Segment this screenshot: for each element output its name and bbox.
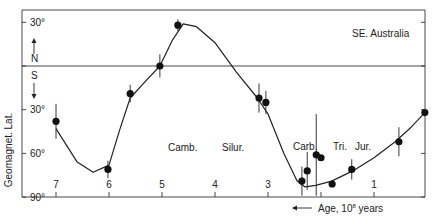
data-point <box>52 118 59 125</box>
data-point <box>174 22 181 29</box>
fitted-curve-path <box>56 24 425 187</box>
y-tick-label: 30° <box>30 17 45 28</box>
data-point <box>127 90 134 97</box>
data-points <box>52 19 428 195</box>
period-label-silurian: Silur. <box>222 142 244 153</box>
y-axis-label: Geomagnet. Lat. <box>3 113 14 188</box>
axis-ticks <box>22 22 425 197</box>
period-label-carboniferous: Carb. <box>293 141 317 152</box>
y-tick-label: 60° <box>30 148 45 159</box>
data-point <box>421 109 428 116</box>
period-label-triassic: Tri. <box>333 141 347 152</box>
data-point <box>262 99 269 106</box>
data-point <box>317 154 324 161</box>
chart-labels: 30°30°60°90°765431SE. AustraliaNSCamb.Si… <box>3 17 410 214</box>
x-tick-label: 7 <box>53 179 59 190</box>
south-label: S <box>31 70 38 81</box>
data-point <box>329 180 336 187</box>
south-arrowhead-icon <box>32 94 37 99</box>
north-arrowhead-icon <box>32 38 37 43</box>
x-tick-label: 6 <box>106 179 112 190</box>
x-axis-label: Age, 108 years <box>318 203 383 214</box>
north-label: N <box>31 53 38 64</box>
data-point <box>104 166 111 173</box>
data-point <box>255 94 262 101</box>
fitted-curve <box>56 24 425 187</box>
x-tick-label: 3 <box>265 179 271 190</box>
x-tick-label: 1 <box>371 179 377 190</box>
y-tick-label: 90° <box>30 192 45 203</box>
x-tick-label: 5 <box>159 179 165 190</box>
data-point <box>395 138 402 145</box>
x-tick-label: 4 <box>212 179 218 190</box>
data-point <box>298 177 305 184</box>
data-point <box>348 166 355 173</box>
y-tick-label: 30° <box>30 104 45 115</box>
period-label-jurassic: Jur. <box>355 141 371 152</box>
data-point <box>156 62 163 69</box>
region-label: SE. Australia <box>352 28 410 39</box>
age-arrowhead-icon <box>292 206 297 211</box>
paleolatitude-chart: 30°30°60°90°765431SE. AustraliaNSCamb.Si… <box>0 0 432 217</box>
data-point <box>304 167 311 174</box>
period-label-cambrian: Camb. <box>168 142 197 153</box>
